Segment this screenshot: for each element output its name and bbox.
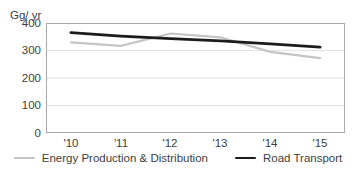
y-tick-label: 400 — [0, 17, 41, 29]
energy-series-line-swatch — [14, 157, 35, 159]
y-tick-label: 200 — [0, 72, 41, 84]
x-tick-label: '15 — [303, 137, 337, 149]
road-transport-line-swatch — [235, 157, 256, 160]
legend: Energy Production & Distribution Road Tr… — [0, 151, 356, 165]
x-tick-label: '11 — [104, 137, 138, 149]
x-tick-label: '12 — [153, 137, 187, 149]
x-tick-label: '10 — [54, 137, 88, 149]
y-tick-label: 100 — [0, 99, 41, 111]
line-chart: Gg/ yr 400 300 200 100 0 '10 '11 '12 '13… — [0, 0, 356, 174]
y-tick-label: 300 — [0, 44, 41, 56]
legend-label-road-transport: Road Transport — [263, 152, 342, 164]
y-tick-label: 0 — [0, 127, 41, 139]
legend-label-energy: Energy Production & Distribution — [42, 152, 208, 164]
plot-area — [46, 23, 345, 133]
x-tick-label: '14 — [253, 137, 287, 149]
x-tick-label: '13 — [203, 137, 237, 149]
